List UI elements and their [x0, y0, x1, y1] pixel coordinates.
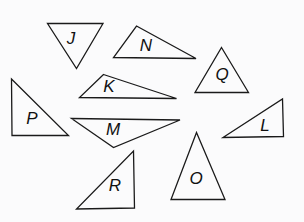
triangle-outline-o	[171, 133, 225, 200]
triangle-outline-p	[12, 79, 69, 136]
triangle-p: P	[12, 79, 69, 136]
triangle-l: L	[223, 99, 284, 138]
triangle-label-l: L	[260, 116, 269, 135]
triangle-m: M	[72, 119, 181, 148]
triangle-n: N	[114, 26, 197, 59]
triangle-label-j: J	[66, 29, 76, 48]
triangle-outline-r	[77, 151, 135, 209]
triangle-o: O	[171, 133, 225, 200]
triangle-label-m: M	[106, 120, 121, 139]
triangle-outline-k	[80, 75, 177, 99]
figure-canvas: JNQKPMLRO	[0, 0, 304, 222]
triangle-label-o: O	[189, 169, 202, 188]
triangle-label-n: N	[140, 36, 153, 55]
triangle-outline-n	[114, 26, 197, 59]
triangle-r: R	[77, 151, 135, 209]
triangle-q: Q	[195, 48, 249, 93]
triangle-outline-l	[223, 99, 284, 138]
triangle-label-q: Q	[215, 65, 228, 84]
triangle-label-k: K	[103, 77, 115, 96]
triangle-label-r: R	[109, 176, 121, 195]
triangle-j: J	[48, 24, 104, 69]
triangle-outline-j	[48, 24, 104, 69]
triangle-outline-m	[72, 119, 181, 148]
triangle-label-p: P	[26, 109, 38, 128]
triangle-k: K	[80, 75, 177, 99]
triangles-diagram: JNQKPMLRO	[0, 0, 304, 222]
